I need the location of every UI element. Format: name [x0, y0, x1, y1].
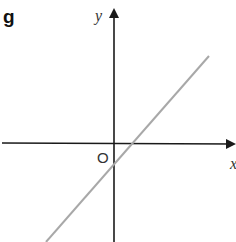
graph-line: [46, 56, 209, 242]
origin-label: O: [97, 149, 109, 166]
y-axis-label: y: [93, 7, 103, 25]
panel-label: g: [3, 6, 15, 27]
x-axis: [2, 143, 234, 144]
x-axis-label: x: [229, 155, 236, 172]
linear-graph-figure: g y x O: [0, 0, 236, 242]
